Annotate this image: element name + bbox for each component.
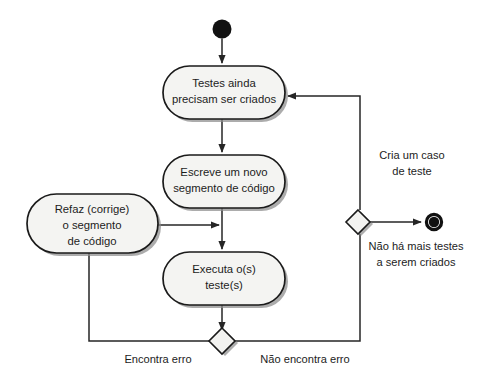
activity-3-line-3: de código [68, 235, 117, 247]
diagram-canvas: left and up into Refaz box bottom --> ri… [0, 0, 484, 382]
encontra-erro-label: Encontra erro [124, 353, 191, 365]
initial-node[interactable] [213, 20, 232, 39]
activity-3-line-2: o segmento [62, 219, 121, 231]
edge-label-nao-encontra-erro: Não encontra erro [260, 353, 349, 365]
activity-refaz-corrige-o-segmento-de-codigo[interactable]: Refaz (corrige) o segmento de código [27, 194, 161, 256]
activity-testes-ainda-precisam-ser-criados[interactable]: Testes ainda precisam ser criados [163, 66, 288, 122]
activity-1-line-2: precisam ser criados [172, 93, 277, 105]
activity-escreve-um-novo-segmento-de-codigo[interactable]: Escreve um novo segmento de código [163, 155, 288, 211]
activity-4-line-1: Executa o(s) [192, 263, 256, 275]
activity-4-line-2: teste(s) [205, 279, 243, 291]
decision-node-encontrou-erro[interactable] [209, 328, 238, 356]
activity-diagram: left and up into Refaz box bottom --> ri… [0, 0, 484, 382]
decision-node-mais-testes[interactable] [346, 210, 373, 236]
activity-3-line-1: Refaz (corrige) [55, 203, 130, 215]
nao-ha-mais-line-1: Não há mais testes [369, 240, 464, 252]
nao-ha-mais-line-2: a serem criados [377, 256, 456, 268]
edge-label-encontra-erro: Encontra erro [124, 353, 191, 365]
cria-caso-line-1: Cria um caso [379, 149, 444, 161]
nao-encontra-erro-label: Não encontra erro [260, 353, 349, 365]
activity-2-line-2: segmento de código [173, 182, 275, 194]
final-node[interactable] [426, 214, 441, 229]
edge-cria-um-caso-de-teste [288, 96, 360, 210]
edge-label-nao-ha-mais-testes: Não há mais testes a serem criados [369, 240, 464, 268]
edge-label-cria-um-caso-de-teste: Cria um caso de teste [379, 149, 444, 177]
activity-executa-os-testes[interactable]: Executa o(s) teste(s) [163, 252, 288, 308]
cria-caso-line-2: de teste [392, 165, 431, 177]
activity-2-line-1: Escreve um novo [180, 166, 267, 178]
activity-1-line-1: Testes ainda [192, 77, 256, 89]
